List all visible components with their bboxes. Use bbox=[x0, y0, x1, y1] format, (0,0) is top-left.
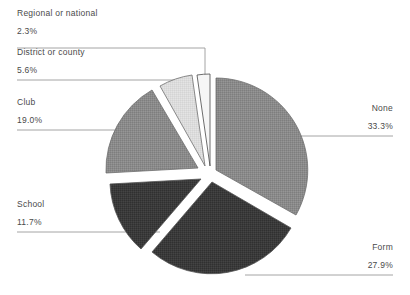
pie-label-club-value: 19.0% bbox=[17, 115, 42, 126]
pie-label-none-name: None bbox=[368, 103, 393, 114]
pie-label-district: District or county 5.6% bbox=[17, 47, 85, 76]
pie-label-club: Club 19.0% bbox=[17, 97, 42, 126]
pie-label-none-value: 33.3% bbox=[368, 121, 393, 132]
pie-label-regional-name: Regional or national bbox=[17, 8, 98, 19]
pie-label-regional-value: 2.3% bbox=[17, 26, 98, 37]
pie-label-club-name: Club bbox=[17, 97, 42, 108]
pie-label-form-name: Form bbox=[368, 242, 393, 253]
pie-label-school-name: School bbox=[17, 199, 45, 210]
pie-chart-canvas bbox=[0, 0, 410, 295]
pie-label-none: None 33.3% bbox=[368, 103, 393, 132]
pie-slices bbox=[106, 74, 308, 274]
pie-label-form-value: 27.9% bbox=[368, 260, 393, 271]
pie-label-form: Form 27.9% bbox=[368, 242, 393, 271]
pie-label-regional: Regional or national 2.3% bbox=[17, 8, 98, 37]
pie-label-district-value: 5.6% bbox=[17, 65, 85, 76]
pie-label-school-value: 11.7% bbox=[17, 217, 45, 228]
pie-label-district-name: District or county bbox=[17, 47, 85, 58]
pie-chart-figure: Regional or national 2.3% District or co… bbox=[0, 0, 410, 295]
pie-label-school: School 11.7% bbox=[17, 199, 45, 228]
